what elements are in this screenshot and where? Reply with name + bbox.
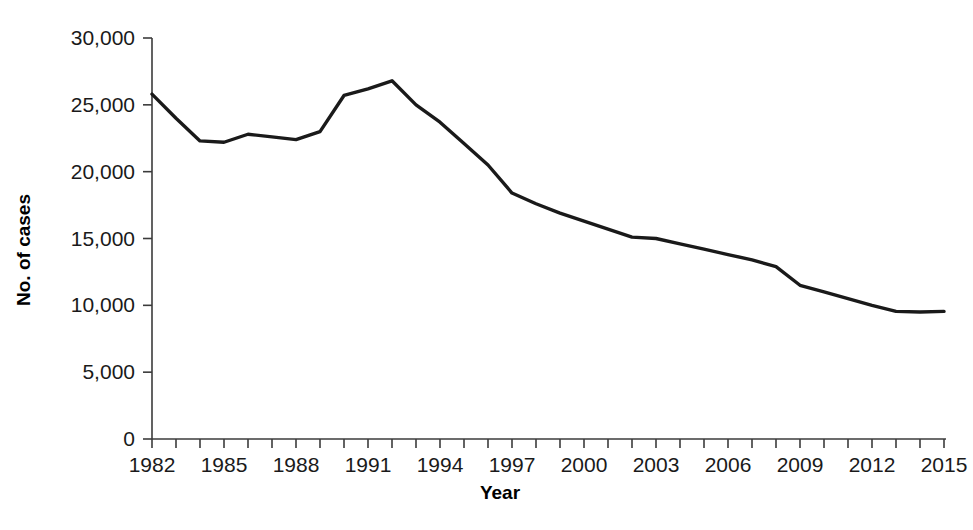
x-tick-label: 2012 [849,453,896,476]
x-tick-label: 1982 [129,453,176,476]
y-axis-title: No. of cases [13,194,34,306]
y-tick-label: 20,000 [71,160,135,183]
x-tick-label: 2006 [705,453,752,476]
y-tick-label: 15,000 [71,227,135,250]
chart-container: 05,00010,00015,00020,00025,00030,000 198… [0,0,973,530]
line-chart: 05,00010,00015,00020,00025,00030,000 198… [0,0,973,530]
y-tick-label: 10,000 [71,293,135,316]
x-tick-label: 1991 [345,453,392,476]
y-tick-label: 0 [123,427,135,450]
x-tick-label: 1988 [273,453,320,476]
x-tick-label: 1994 [417,453,464,476]
x-tick-label: 2015 [921,453,968,476]
x-axis-title: Year [480,482,521,503]
y-tick-label: 30,000 [71,26,135,49]
x-tick-label: 2003 [633,453,680,476]
y-tick-label: 5,000 [82,360,135,383]
y-tick-label: 25,000 [71,93,135,116]
x-tick-label: 1997 [489,453,536,476]
x-tick-label: 2009 [777,453,824,476]
x-tick-label: 1985 [201,453,248,476]
x-tick-label: 2000 [561,453,608,476]
chart-background [0,0,973,530]
